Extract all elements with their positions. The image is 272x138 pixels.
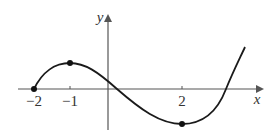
function-curve [34, 47, 245, 124]
point-endpoint-neg2 [31, 86, 37, 92]
tick-label-2: 2 [178, 93, 186, 109]
point-local-min [179, 121, 185, 127]
function-graph: −2 −1 2 x y [0, 0, 272, 138]
point-local-max [67, 60, 73, 66]
tick-label-neg1: −1 [62, 93, 78, 109]
tick-label-neg2: −2 [26, 93, 42, 109]
x-axis-label: x [253, 91, 261, 107]
y-axis-label: y [95, 9, 104, 25]
